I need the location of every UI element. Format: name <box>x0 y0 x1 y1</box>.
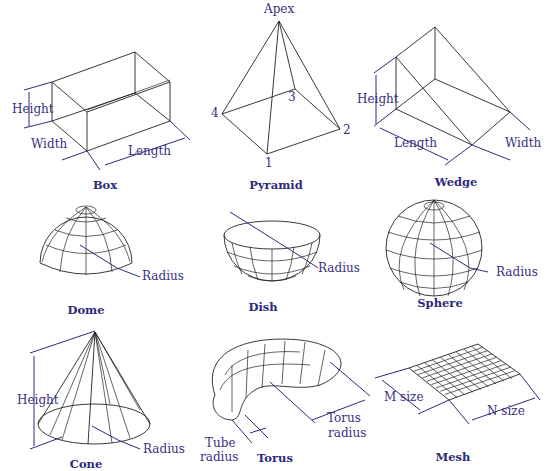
box-length-label: Length <box>128 145 171 157</box>
torus-tube-radius-label-line2: radius <box>200 451 238 463</box>
dish-radius-label: Radius <box>318 262 360 274</box>
dome-figure <box>40 206 140 277</box>
pyramid-vertex-4-label: 4 <box>211 107 219 119</box>
cone-title: Cone <box>70 459 103 471</box>
box-height-label: Height <box>12 103 54 115</box>
torus-title: Torus <box>257 453 293 465</box>
wedge-width-label: Width <box>505 137 541 149</box>
wedge-length-label: Length <box>394 137 437 149</box>
pyramid-vertex-1-label: 1 <box>265 157 273 169</box>
dish-figure <box>224 212 320 281</box>
cone-figure <box>30 331 150 449</box>
sphere-title: Sphere <box>417 298 462 310</box>
torus-torus-radius-label-line2: radius <box>328 427 366 439</box>
pyramid-apex-label: Apex <box>264 3 294 15</box>
wedge-title: Wedge <box>435 177 478 189</box>
pyramid-figure <box>222 21 340 154</box>
sphere-radius-label: Radius <box>496 266 538 278</box>
dome-radius-label: Radius <box>142 270 184 282</box>
pyramid-vertex-2-label: 2 <box>343 124 351 136</box>
wedge-height-label: Height <box>357 93 399 105</box>
torus-torus-radius-label-line1: Torus <box>327 412 361 424</box>
box-title: Box <box>93 180 117 192</box>
pyramid-vertex-3-label: 3 <box>288 91 296 103</box>
mesh-m-size-label: M size <box>384 391 424 403</box>
dish-title: Dish <box>248 302 277 314</box>
pyramid-title: Pyramid <box>249 180 302 192</box>
torus-tube-radius-label-line1: Tube <box>205 437 236 449</box>
mesh-title: Mesh <box>436 452 471 464</box>
cone-height-label: Height <box>17 394 59 406</box>
dome-title: Dome <box>67 305 104 317</box>
box-width-label: Width <box>31 138 67 150</box>
cone-radius-label: Radius <box>143 443 185 455</box>
sphere-figure <box>386 200 488 296</box>
mesh-n-size-label: N size <box>487 405 525 417</box>
